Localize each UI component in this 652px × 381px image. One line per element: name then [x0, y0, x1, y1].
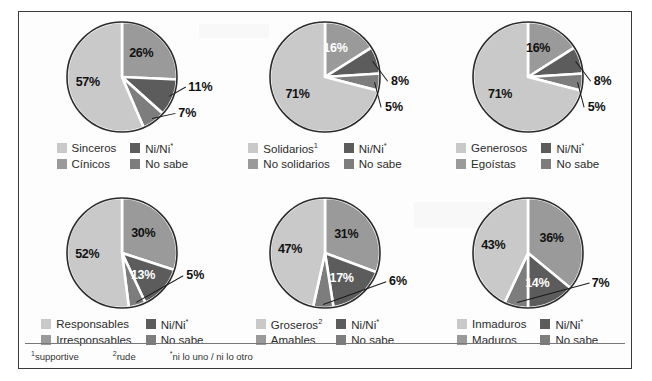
pie-chart-cell: 47%31%17%6%Groseros2Ni/Ni*AmablesNo sabe: [224, 192, 427, 368]
legend-item[interactable]: Ni/Ni*: [336, 317, 394, 331]
legend-swatch-icon: [57, 159, 67, 169]
pie-slice: [122, 22, 177, 80]
chart-legend: GenerososNi/Ni*EgoístasNo sabe: [456, 141, 599, 170]
legend-item[interactable]: Maduros: [457, 334, 526, 346]
legend-item[interactable]: No solidarios: [248, 158, 329, 170]
legend-item[interactable]: Amables: [256, 334, 322, 346]
pie-chart-cell: 52%30%13%5%ResponsablesNi/Ni*Irresponsab…: [21, 192, 224, 368]
legend-label: Ni/Ni*: [359, 141, 387, 155]
chart-legend: InmadurosNi/Ni*MadurosNo sabe: [457, 317, 598, 346]
legend-item[interactable]: No sabe: [336, 334, 394, 346]
legend-label: No sabe: [161, 334, 204, 346]
legend-swatch-icon: [344, 143, 354, 153]
pie-chart: 47%31%17%6%: [266, 194, 384, 312]
pie-chart: 52%30%13%5%: [63, 194, 181, 312]
legend-swatch-icon: [540, 319, 550, 329]
legend-swatch-icon: [130, 159, 140, 169]
legend-label: Ni/Ni*: [555, 317, 583, 331]
legend-item[interactable]: No sabe: [540, 334, 598, 346]
chart-legend: Groseros2Ni/Ni*AmablesNo sabe: [256, 317, 394, 346]
legend-label: No sabe: [555, 334, 598, 346]
legend-item[interactable]: Cínicos: [57, 158, 117, 170]
chart-legend: Solidarios1Ni/Ni*No solidariosNo sabe: [248, 141, 401, 170]
legend-label: No sabe: [351, 334, 394, 346]
legend-item[interactable]: Irresponsables: [41, 334, 131, 346]
legend-label: Maduros: [472, 334, 517, 346]
pie-chart: 43%36%14%7%: [469, 194, 587, 312]
footnote: 2rude: [113, 350, 136, 362]
legend-item[interactable]: Generosos: [456, 141, 527, 155]
legend-label: Responsables: [56, 318, 129, 330]
legend-label: Ni/Ni*: [556, 141, 584, 155]
chart-legend: SincerosNi/Ni*CínicosNo sabe: [57, 141, 189, 170]
legend-label: Ni/Ni*: [161, 317, 189, 331]
legend-label: Groseros2: [271, 317, 322, 331]
legend-label: No sabe: [359, 158, 402, 170]
legend-label: Ni/Ni*: [351, 317, 379, 331]
legend-swatch-icon: [541, 143, 551, 153]
legend-item[interactable]: Ni/Ni*: [541, 141, 599, 155]
legend-item[interactable]: Ni/Ni*: [130, 141, 188, 155]
footnote: *ni lo uno / ni lo otro: [170, 350, 253, 362]
legend-label: Irresponsables: [56, 334, 131, 346]
legend-footnote-marker: 1: [314, 141, 318, 150]
legend-swatch-icon: [41, 319, 51, 329]
legend-footnote-marker: *: [170, 141, 173, 150]
legend-item[interactable]: No sabe: [541, 158, 599, 170]
pie-chart-cell: 71%16%8%5%Solidarios1Ni/Ni*No solidarios…: [224, 16, 427, 192]
legend-swatch-icon: [336, 319, 346, 329]
legend-label: Sinceros: [72, 142, 117, 154]
legend-swatch-icon: [248, 143, 258, 153]
pie-chart-grid: 57%26%11%7%SincerosNi/Ni*CínicosNo sabe7…: [19, 12, 631, 368]
legend-item[interactable]: Inmaduros: [457, 317, 526, 331]
pie-callout-label: 7%: [178, 106, 196, 120]
pie-callout-label: 8%: [594, 74, 612, 88]
legend-swatch-icon: [256, 319, 266, 329]
pie-slice: [67, 198, 129, 308]
legend-item[interactable]: No sabe: [344, 158, 402, 170]
footnote-text: rude: [117, 351, 136, 362]
legend-item[interactable]: Ni/Ni*: [540, 317, 598, 331]
pie-chart-cell: 43%36%14%7%InmadurosNi/Ni*MadurosNo sabe: [426, 192, 629, 368]
legend-swatch-icon: [130, 143, 140, 153]
legend-label: No sabe: [145, 158, 188, 170]
legend-item[interactable]: No sabe: [146, 334, 204, 346]
pie-callout-label: 5%: [588, 100, 606, 114]
legend-footnote-marker: *: [384, 141, 387, 150]
legend-item[interactable]: Egoístas: [456, 158, 527, 170]
pie-callout-label: 7%: [592, 276, 610, 290]
legend-item[interactable]: No sabe: [130, 158, 188, 170]
legend-swatch-icon: [541, 159, 551, 169]
legend-label: Amables: [271, 334, 316, 346]
legend-item[interactable]: Responsables: [41, 317, 131, 331]
footnote-list: 1supportive2rude*ni lo uno / ni lo otro: [31, 350, 253, 362]
legend-swatch-icon: [248, 159, 258, 169]
legend-item[interactable]: Ni/Ni*: [344, 141, 402, 155]
legend-item[interactable]: Solidarios1: [248, 141, 329, 155]
legend-swatch-icon: [456, 143, 466, 153]
footnote-text: supportive: [35, 351, 79, 362]
legend-swatch-icon: [456, 159, 466, 169]
footnote: 1supportive: [31, 350, 79, 362]
figure-frame: 57%26%11%7%SincerosNi/Ni*CínicosNo sabe7…: [18, 11, 632, 369]
legend-footnote-marker: *: [186, 317, 189, 326]
pie-chart-cell: 71%16%8%5%GenerososNi/Ni*EgoístasNo sabe: [426, 16, 629, 192]
pie-callout-label: 11%: [188, 80, 212, 94]
footnote-text: ni lo uno / ni lo otro: [172, 351, 252, 362]
legend-swatch-icon: [344, 159, 354, 169]
pie-callout-label: 5%: [186, 268, 204, 282]
legend-label: Ni/Ni*: [145, 141, 173, 155]
legend-swatch-icon: [457, 319, 467, 329]
legend-swatch-icon: [57, 143, 67, 153]
legend-label: Cínicos: [72, 158, 110, 170]
legend-label: No solidarios: [263, 158, 329, 170]
legend-item[interactable]: Groseros2: [256, 317, 322, 331]
legend-item[interactable]: Ni/Ni*: [146, 317, 204, 331]
legend-footnote-marker: 2: [318, 317, 322, 326]
legend-label: Generosos: [471, 142, 527, 154]
legend-swatch-icon: [146, 319, 156, 329]
legend-item[interactable]: Sinceros: [57, 141, 117, 155]
chart-legend: ResponsablesNi/Ni*IrresponsablesNo sabe: [41, 317, 203, 346]
footnote-divider: [25, 343, 625, 344]
pie-chart: 71%16%8%5%: [469, 18, 587, 136]
